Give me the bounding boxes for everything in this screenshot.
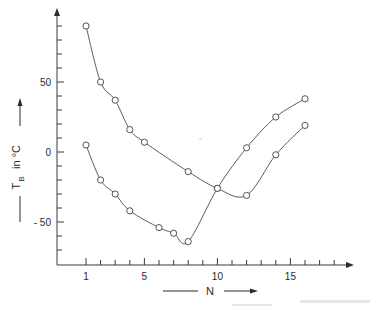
scan-speck [199, 138, 202, 140]
x-axis-title-group: N [163, 285, 258, 297]
scan-streak-2 [232, 304, 272, 306]
y-axis-arrow-icon [54, 8, 60, 16]
x-tick-label: 5 [142, 271, 148, 282]
y-tick-label: - 50 [34, 217, 52, 228]
x-axis-arrow-icon [346, 262, 354, 268]
y-title-arrow-icon [18, 98, 23, 106]
data-point-marker [273, 152, 279, 158]
x-tick-label: 1 [83, 271, 89, 282]
x-title-arrow-icon [250, 289, 258, 294]
series-line [86, 99, 305, 244]
y-axis-title-main: T [10, 182, 22, 189]
data-point-marker [185, 239, 191, 245]
data-point-marker [273, 114, 279, 120]
y-axis-title-subscript: B [17, 176, 26, 181]
y-axis-title-tail: in °C [10, 145, 22, 169]
x-axis-title: N [206, 285, 214, 297]
series-lower-branch [83, 96, 308, 245]
data-point-marker [141, 139, 147, 145]
scan-streak [300, 300, 370, 303]
data-series-group [83, 23, 308, 245]
data-point-marker [244, 192, 250, 198]
x-tick-label: 15 [285, 271, 297, 282]
x-axis-ticks [86, 258, 334, 265]
data-point-marker [112, 97, 118, 103]
x-axis-tick-labels: 151015 [83, 271, 296, 282]
data-point-marker [98, 79, 104, 85]
data-point-marker [127, 127, 133, 133]
plot-area: 500- 50 151015 --> N (rotated) --> T B i… [0, 0, 374, 309]
series-line [86, 26, 305, 197]
data-point-marker [302, 96, 308, 102]
data-point-marker [171, 230, 177, 236]
series-upper-branch [83, 23, 308, 199]
y-axis-ticks [57, 26, 64, 250]
data-point-marker [156, 225, 162, 231]
y-tick-label: 0 [45, 147, 51, 158]
data-point-marker [214, 185, 220, 191]
data-point-marker [185, 169, 191, 175]
data-point-marker [302, 122, 308, 128]
x-tick-label: 10 [212, 271, 224, 282]
data-point-marker [112, 191, 118, 197]
y-tick-label: 50 [40, 77, 52, 88]
data-point-marker [244, 145, 250, 151]
y-axis-title-group: T B in °C [10, 98, 26, 222]
axis-lines [54, 8, 354, 268]
data-point-marker [83, 142, 89, 148]
data-point-marker [83, 23, 89, 29]
data-point-marker [98, 177, 104, 183]
data-point-marker [127, 208, 133, 214]
chart-figure: 500- 50 151015 --> N (rotated) --> T B i… [0, 0, 374, 309]
y-axis-tick-labels: 500- 50 [34, 77, 52, 228]
